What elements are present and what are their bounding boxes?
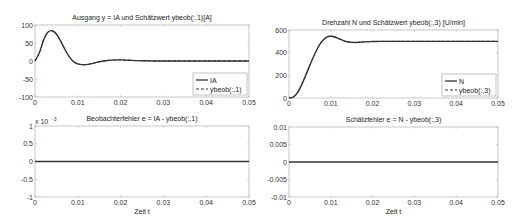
x-tick-label: 0 <box>33 199 37 206</box>
y-exponent-label: x 10 <box>35 118 48 125</box>
legend-label: N <box>459 78 464 85</box>
y-tick-label: -0.01 <box>271 194 287 201</box>
y-tick-label: 400 <box>275 49 287 56</box>
y-tick-label: -0.5 <box>21 176 33 183</box>
x-tick-label: 0.03 <box>157 199 171 206</box>
x-tick-label: 0.03 <box>408 100 422 107</box>
y-tick-label: 100 <box>21 22 33 29</box>
y-tick-label: 0 <box>29 158 33 165</box>
x-tick-label: 0.02 <box>114 199 128 206</box>
x-tick-label: 0.02 <box>366 100 380 107</box>
y-tick-label: 200 <box>275 72 287 79</box>
x-tick-label: 0.01 <box>324 100 338 107</box>
legend-label: IA <box>210 77 217 84</box>
x-tick-label: 0.02 <box>114 99 128 106</box>
chart-title: Drehzahl N und Schätzwert ybeob(:,3) [U/… <box>322 19 465 27</box>
y-tick-label: 0 <box>29 58 33 65</box>
x-tick-label: 0 <box>287 199 291 206</box>
y-tick-label: 0 <box>283 95 287 102</box>
chart-title: Ausgang y = IA und Schätzwert ybeob(:,1)… <box>72 14 212 22</box>
x-tick-label: 0.01 <box>71 99 85 106</box>
x-tick-label: 0.01 <box>324 199 338 206</box>
x-tick-label: 0.04 <box>199 99 213 106</box>
x-tick-label: 0.04 <box>449 199 463 206</box>
x-tick-label: 0.05 <box>242 99 256 106</box>
x-tick-label: 0.01 <box>71 199 85 206</box>
x-tick-label: 0.02 <box>366 199 380 206</box>
axes-3: Beobachterfehler e = IA - ybeob(:,1)00.0… <box>21 115 256 215</box>
y-tick-label: 0 <box>283 159 287 166</box>
x-tick-label: 0.05 <box>491 199 505 206</box>
x-tick-label: 0.04 <box>449 100 463 107</box>
y-tick-label: 50 <box>25 40 33 47</box>
y-exponent-power: -3 <box>52 116 57 122</box>
x-tick-label: 0.03 <box>157 99 171 106</box>
y-tick-label: 1 <box>29 123 33 130</box>
y-tick-label: 600 <box>275 27 287 34</box>
x-axis-label: Zeit t <box>134 208 150 215</box>
legend: Nybeob(:,3) <box>442 74 496 96</box>
x-tick-label: 0.03 <box>408 199 422 206</box>
chart-title: Beobachterfehler e = IA - ybeob(:,1) <box>86 115 197 123</box>
y-tick-label: 0.01 <box>273 124 287 131</box>
x-axis-label: Zeit t <box>386 208 402 215</box>
axes-2: Drehzahl N und Schätzwert ybeob(:,3) [U/… <box>275 19 505 107</box>
legend-label: ybeob(:,1) <box>210 86 242 94</box>
y-tick-label: -50 <box>23 76 33 83</box>
y-tick-label: -0.005 <box>267 176 287 183</box>
axes-1: Ausgang y = IA und Schätzwert ybeob(:,1)… <box>19 14 256 106</box>
y-tick-label: -1 <box>27 194 33 201</box>
chart-title: Schätzfehler e = N - ybeob(:,3) <box>346 116 442 124</box>
x-tick-label: 0 <box>287 100 291 107</box>
x-tick-label: 0.05 <box>491 100 505 107</box>
axes-4: Schätzfehler e = N - ybeob(:,3)00.010.02… <box>267 116 505 215</box>
x-tick-label: 0.04 <box>199 199 213 206</box>
x-tick-label: 0.05 <box>242 199 256 206</box>
y-tick-label: 0.005 <box>269 141 287 148</box>
figure: Ausgang y = IA und Schätzwert ybeob(:,1)… <box>0 0 522 223</box>
legend-label: ybeob(:,3) <box>459 87 491 95</box>
legend: IAybeob(:,1) <box>193 73 247 95</box>
y-tick-label: -100 <box>19 94 33 101</box>
y-tick-label: 0.5 <box>23 140 33 147</box>
x-tick-label: 0 <box>33 99 37 106</box>
